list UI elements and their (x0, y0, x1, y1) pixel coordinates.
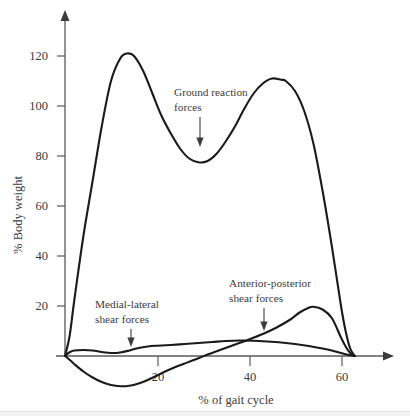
y-tick-label-20: 20 (36, 299, 49, 313)
chart-canvas: 120 100 80 60 40 20 20 40 60 % of gait c… (0, 0, 410, 416)
annotation-medial-lateral-line2: shear forces (95, 313, 149, 325)
y-axis-arrowhead (61, 10, 70, 21)
gait-cycle-force-chart: 120 100 80 60 40 20 20 40 60 % of gait c… (0, 0, 410, 416)
y-tick-label-120: 120 (29, 49, 48, 63)
page-bottom-edge (0, 411, 410, 416)
y-tick-label-80: 80 (36, 149, 49, 163)
annotation-medial-lateral-arrowhead (127, 338, 134, 348)
annotation-ground-reaction-line1: Ground reaction (174, 86, 248, 98)
annotation-ground-reaction-arrowhead (196, 138, 203, 148)
x-tick-label-60: 60 (336, 370, 349, 384)
y-tick-label-40: 40 (36, 249, 49, 263)
x-tick-label-40: 40 (244, 370, 257, 384)
x-axis-title: % of gait cycle (198, 393, 274, 407)
annotation-anterior-posterior-line1: Anterior-posterior (229, 277, 311, 289)
annotation-ground-reaction-line2: forces (174, 101, 202, 113)
y-tick-label-100: 100 (29, 99, 48, 113)
curve-ground-reaction-forces (65, 53, 355, 356)
annotation-medial-lateral-line1: Medial-lateral (95, 298, 159, 310)
y-tick-label-60: 60 (36, 199, 49, 213)
x-axis-arrowhead (383, 352, 394, 361)
annotation-anterior-posterior-arrowhead (260, 322, 267, 332)
annotation-anterior-posterior-line2: shear forces (229, 292, 283, 304)
y-axis-title: % Body weight (11, 176, 25, 254)
